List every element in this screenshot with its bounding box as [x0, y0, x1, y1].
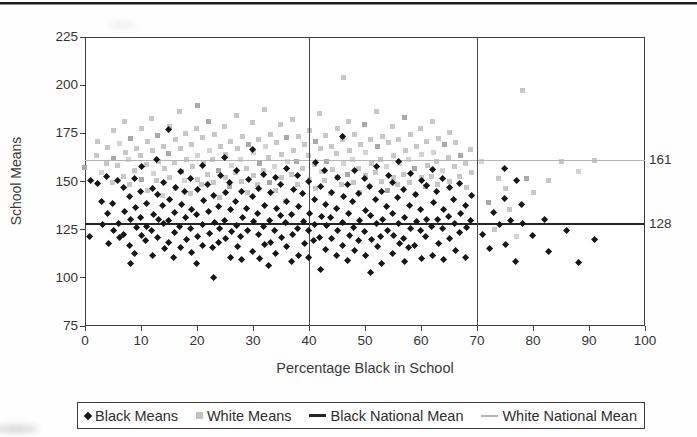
scatter-point-white-means: [425, 163, 430, 168]
scatter-point-white-means: [317, 111, 322, 116]
y-tick-label: 125: [36, 222, 78, 237]
x-tick-mark: [645, 326, 646, 331]
scatter-point-white-means: [430, 119, 435, 124]
scatter-point-white-means: [267, 180, 272, 185]
scatter-point-white-means: [329, 144, 334, 149]
scatter-point-white-means: [496, 176, 501, 181]
scatter-point-white-means: [351, 180, 356, 185]
scatter-point-white-means: [274, 140, 279, 145]
x-tick-mark: [85, 326, 86, 331]
scatter-point-white-means: [235, 146, 240, 151]
scatter-point-white-means: [123, 150, 128, 155]
scatter-point-white-means: [149, 116, 154, 121]
scatter-point-white-means: [374, 109, 379, 114]
scatter-point-white-means: [384, 164, 389, 169]
y-tick-mark: [80, 133, 85, 134]
scatter-point-white-means: [161, 144, 166, 149]
refline-vertical-70: [477, 37, 478, 326]
scatter-point-white-means: [386, 140, 391, 145]
scatter-point-white-means: [524, 176, 529, 181]
scatter-point-white-means: [268, 132, 273, 137]
scatter-point-white-means: [362, 122, 367, 127]
y-tick-label: 100: [36, 270, 78, 285]
scatter-point-white-means: [234, 113, 239, 118]
x-tick-label: 10: [121, 333, 161, 348]
scatter-point-white-means: [300, 166, 305, 171]
legend-item-black-national-mean: Black National Mean: [309, 408, 463, 424]
legend-line-icon: [481, 415, 498, 417]
scatter-point-white-means: [139, 177, 144, 182]
scatter-point-white-means: [469, 170, 474, 175]
scatter-point-white-means: [177, 109, 182, 114]
legend-item-white-means: White Means: [196, 408, 292, 424]
y-tick-label: 200: [36, 77, 78, 92]
scatter-point-white-means: [162, 166, 167, 171]
scatter-point-white-means: [251, 173, 256, 178]
x-tick-mark: [197, 326, 198, 331]
scatter-point-white-means: [178, 146, 183, 151]
scatter-point-white-means: [257, 161, 262, 166]
scatter-point-white-means: [272, 164, 277, 169]
y-tick-mark: [80, 181, 85, 182]
x-axis-title: Percentage Black in School: [276, 360, 453, 376]
scatter-point-white-means: [390, 124, 395, 129]
scatter-point-white-means: [452, 164, 457, 169]
scatter-point-white-means: [256, 137, 261, 142]
x-tick-label: 40: [289, 333, 329, 348]
scatter-point-white-means: [391, 153, 396, 158]
refline-label-161: 161: [649, 152, 672, 167]
scatter-point-white-means: [341, 75, 346, 80]
legend-item-white-national-mean: White National Mean: [481, 408, 637, 424]
scatter-point-white-means: [94, 153, 99, 158]
scatter-point-white-means: [239, 179, 244, 184]
scatter-point-white-means: [194, 126, 199, 131]
scatter-point-white-means: [414, 144, 419, 149]
scatter-point-white-means: [514, 234, 519, 239]
scatter-point-white-means: [335, 126, 340, 131]
scatter-point-white-means: [122, 119, 127, 124]
scatter-point-white-means: [296, 134, 301, 139]
scatter-point-white-means: [453, 140, 458, 145]
scatter-point-white-means: [302, 142, 307, 147]
scatter-point-white-means: [380, 134, 385, 139]
legend-diamond-icon: [84, 411, 92, 419]
scatter-point-white-means: [341, 161, 346, 166]
scatter-point-white-means: [313, 139, 318, 144]
scatter-point-white-means: [442, 142, 447, 147]
scatter-point-white-means: [278, 122, 283, 127]
scatter-point-white-means: [250, 120, 255, 125]
refline-label-128: 128: [649, 216, 672, 231]
figure-scatter-school-means: School Means Percentage Black in School …: [0, 0, 697, 437]
scatter-point-white-means: [244, 166, 249, 171]
scatter-point-white-means: [151, 171, 156, 176]
scatter-point-white-means: [368, 137, 373, 142]
top-page-rule: [0, 2, 697, 5]
x-tick-mark: [141, 326, 142, 331]
scatter-point-white-means: [138, 153, 143, 158]
scatter-point-white-means: [145, 139, 150, 144]
scatter-point-white-means: [200, 135, 205, 140]
scatter-point-white-means: [486, 200, 491, 205]
x-tick-mark: [365, 326, 366, 331]
scatter-point-white-means: [262, 107, 267, 112]
legend-item-black-means: Black Means: [85, 408, 178, 424]
scatter-point-white-means: [222, 124, 227, 129]
scatter-point-white-means: [318, 146, 323, 151]
scatter-point-white-means: [330, 167, 335, 172]
scatter-point-white-means: [520, 88, 525, 93]
scatter-point-white-means: [166, 151, 171, 156]
scatter-point-white-means: [189, 142, 194, 147]
scatter-point-white-means: [322, 178, 327, 183]
scatter-point-white-means: [531, 190, 536, 195]
scatter-point-white-means: [345, 172, 350, 177]
x-tick-label: 60: [401, 333, 441, 348]
legend: Black MeansWhite MeansBlack National Mea…: [77, 402, 645, 429]
scan-smudge: [0, 425, 38, 433]
scatter-point-white-means: [121, 174, 126, 179]
x-tick-mark: [589, 326, 590, 331]
scatter-point-white-means: [424, 139, 429, 144]
legend-label: Black National Mean: [330, 408, 463, 424]
scatter-point-white-means: [155, 133, 160, 138]
scatter-point-white-means: [431, 150, 436, 155]
scatter-point-white-means: [218, 144, 223, 149]
